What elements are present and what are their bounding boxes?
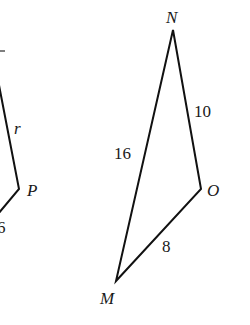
edge-label-6: 6 [0, 218, 6, 237]
vertex-label-n: N [165, 8, 179, 27]
edge-label-mn: 16 [114, 144, 131, 163]
triangle-mno: N O M 10 16 8 [99, 8, 219, 308]
edge-label-no: 10 [194, 102, 211, 121]
vertex-label-m: M [99, 289, 115, 308]
left-partial-figure: r P 6 [0, 51, 37, 237]
edge-label-r: r [14, 119, 21, 138]
geometry-diagram: r P 6 N O M 10 16 8 [0, 0, 250, 325]
edge-label-mo: 8 [162, 237, 171, 256]
left-figure-edges [0, 80, 19, 214]
vertex-label-o: O [207, 181, 219, 200]
vertex-label-p: P [26, 181, 37, 200]
